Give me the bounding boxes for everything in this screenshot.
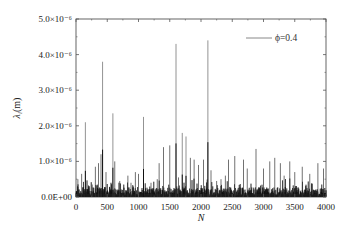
- svg-text:λi(m): λi(m): [11, 98, 24, 120]
- legend: ϕ=0.4: [246, 33, 297, 43]
- y-axis-title: λi(m): [11, 98, 24, 120]
- x-tick-label: 1500: [161, 202, 180, 212]
- x-tick-label: 1000: [130, 202, 149, 212]
- x-tick-label: 4000: [317, 202, 336, 212]
- x-axis-title: N: [197, 212, 206, 223]
- x-tick-label: 2000: [192, 202, 211, 212]
- legend-label: ϕ=0.4: [275, 33, 297, 43]
- chart: 05001000150020002500300035004000 0.0E+00…: [0, 0, 353, 238]
- y-tick-label: 1.0×10⁻⁶: [39, 156, 72, 166]
- y-tick-label: 4.0×10⁻⁶: [39, 50, 72, 60]
- x-tick-label: 0: [74, 202, 79, 212]
- plot-area: 05001000150020002500300035004000 0.0E+00…: [39, 14, 336, 212]
- y-tick-label: 5.0×10⁻⁶: [39, 14, 72, 24]
- x-tick-label: 3000: [255, 202, 274, 212]
- y-tick-label: 2.0×10⁻⁶: [39, 121, 72, 131]
- plot-frame: [76, 19, 326, 197]
- data-series: [76, 40, 326, 197]
- y-tick-label: 3.0×10⁻⁶: [39, 85, 72, 95]
- y-tick-label: 0.0E+00: [41, 192, 72, 202]
- x-tick-label: 500: [101, 202, 115, 212]
- x-tick-label: 2500: [223, 202, 242, 212]
- y-axis-title-unit: (m): [11, 98, 23, 112]
- x-tick-label: 3500: [286, 202, 305, 212]
